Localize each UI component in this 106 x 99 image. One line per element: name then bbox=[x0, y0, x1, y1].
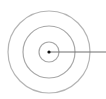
center-dot bbox=[47, 50, 50, 53]
concentric-circles-diagram bbox=[0, 0, 106, 99]
